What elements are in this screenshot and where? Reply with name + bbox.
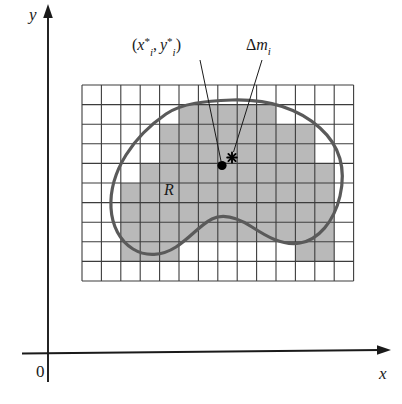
sample-point-label-x-var: x <box>136 36 144 53</box>
sample-point-label-comma: , <box>153 36 157 53</box>
sample-point-dot <box>217 161 226 170</box>
mass-element-label-m-var: m <box>256 36 268 53</box>
sample-point-label-close-paren: ) <box>176 36 181 54</box>
mass-element-label-m-sub: i <box>268 45 271 57</box>
y-axis-label: y <box>27 5 37 24</box>
region-label: R <box>163 181 174 198</box>
shaded-cell <box>179 105 276 125</box>
lamina-partition-diagram: y x 0 R (x*i,y*i) Δmi <box>0 0 402 404</box>
shaded-cell <box>121 222 334 242</box>
mass-element-star-marker <box>227 153 237 163</box>
x-axis-label: x <box>378 364 387 383</box>
mass-element-label-delta: Δ <box>246 36 256 53</box>
origin-label: 0 <box>36 362 45 381</box>
shaded-cell <box>121 183 334 203</box>
shaded-cell <box>121 203 334 223</box>
